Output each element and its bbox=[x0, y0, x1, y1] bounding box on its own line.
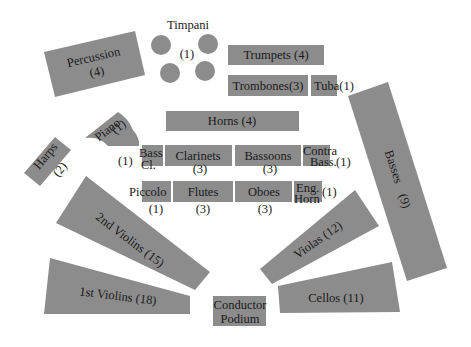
percussion-section: Percussion (4) bbox=[44, 31, 145, 97]
conductor-label-line1: Conductor bbox=[214, 298, 268, 312]
cellos-label: Cellos (11) bbox=[308, 291, 363, 305]
conductor-label-line2: Podium bbox=[221, 312, 260, 326]
oboes-section: Oboes (3) bbox=[235, 181, 292, 216]
flutes-label: Flutes bbox=[188, 185, 219, 199]
piccolo-label: Piccolo bbox=[129, 185, 167, 199]
english-horn-count: (1) bbox=[322, 185, 337, 199]
horns-section: Horns (4) bbox=[166, 111, 299, 131]
timpani-label: Timpani bbox=[167, 18, 209, 32]
oboes-count: (3) bbox=[258, 202, 273, 216]
flutes-section: Flutes (3) bbox=[173, 181, 233, 216]
bassoons-section: Bassoons (3) bbox=[235, 145, 301, 176]
harps-section: Harps (2) bbox=[24, 137, 71, 186]
horns-label: Horns (4) bbox=[208, 114, 256, 128]
flutes-count: (3) bbox=[196, 202, 211, 216]
piccolo-count: (1) bbox=[149, 202, 164, 216]
timpani-section: Timpani (1) bbox=[151, 18, 218, 83]
timpani-drum bbox=[160, 63, 180, 83]
contrabassoon-label-line2: Bass. bbox=[310, 155, 337, 169]
clarinets-section: Clarinets (3) bbox=[165, 145, 232, 176]
basses-section: Basses (9) bbox=[348, 82, 447, 281]
trombones-section: Trombones(3) bbox=[228, 75, 308, 96]
bass-clarinet-section: Bass Cl. (1) bbox=[118, 145, 163, 172]
english-horn-section: Eng. Horn (1) bbox=[294, 181, 337, 206]
timpani-drum bbox=[195, 61, 215, 81]
timpani-drum bbox=[198, 34, 218, 54]
conductor-podium: Conductor Podium bbox=[213, 296, 267, 326]
bass-clarinet-label-line2: Cl. bbox=[141, 158, 156, 172]
tuba-label: Tuba(1) bbox=[314, 79, 354, 93]
trumpets-label: Trumpets (4) bbox=[243, 48, 308, 62]
bassoons-label: Bassoons bbox=[244, 149, 291, 163]
piano-section: Piano (1) bbox=[85, 112, 139, 146]
english-horn-label-line2: Horn bbox=[294, 192, 320, 206]
contrabassoon-section: Contra Bass. (1) bbox=[303, 144, 351, 169]
piccolo-section: Piccolo (1) bbox=[129, 181, 171, 216]
bassoons-count: (3) bbox=[263, 162, 278, 176]
trombones-label: Trombones(3) bbox=[232, 79, 303, 93]
timpani-drum bbox=[151, 35, 171, 55]
timpani-count: (1) bbox=[180, 47, 195, 61]
clarinets-label: Clarinets bbox=[175, 149, 220, 163]
contrabassoon-count: (1) bbox=[336, 155, 351, 169]
trumpets-section: Trumpets (4) bbox=[228, 45, 324, 65]
tuba-section: Tuba(1) bbox=[311, 75, 354, 96]
oboes-label: Oboes bbox=[248, 185, 280, 199]
orchestra-diagram: Timpani (1) Percussion (4) Trumpets (4) … bbox=[0, 0, 471, 347]
clarinets-count: (3) bbox=[193, 162, 208, 176]
bass-clarinet-count: (1) bbox=[118, 154, 133, 168]
